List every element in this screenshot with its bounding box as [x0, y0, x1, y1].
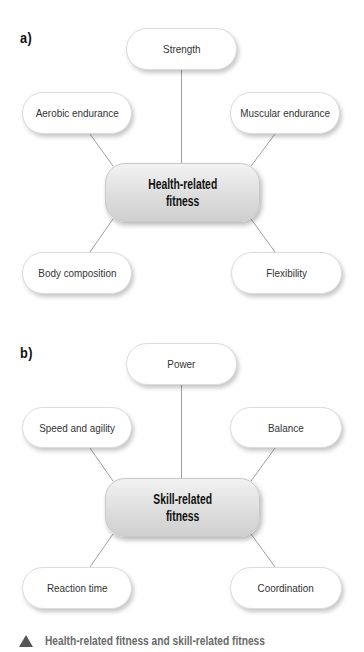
- node-label: Coordination: [258, 582, 314, 594]
- center-label-line2: fitness: [166, 508, 199, 525]
- node-body-composition: Body composition: [22, 252, 132, 294]
- node-label: Aerobic endurance: [35, 107, 118, 119]
- connector-balance: [251, 448, 275, 481]
- node-muscular-endurance: Muscular endurance: [230, 92, 340, 134]
- figure-caption: Health-related fitness and skill-related…: [19, 634, 304, 648]
- center-node-skill-related-fitness: Skill-related fitness: [105, 478, 260, 537]
- node-aerobic-endurance: Aerobic endurance: [22, 92, 132, 134]
- node-label: Speed and agility: [39, 422, 115, 434]
- center-node-health-related-fitness: Health-related fitness: [105, 163, 260, 222]
- node-power: Power: [126, 343, 237, 385]
- panel-label-b: b): [20, 344, 33, 361]
- caption-text: Health-related fitness and skill-related…: [45, 634, 265, 648]
- node-coordination: Coordination: [230, 567, 342, 609]
- node-label: Muscular endurance: [240, 107, 330, 119]
- connector-muscular: [251, 134, 275, 166]
- connector-reaction: [90, 534, 113, 567]
- node-speed-and-agility: Speed and agility: [22, 407, 132, 448]
- panel-label-a: a): [20, 29, 32, 46]
- connector-speed: [90, 448, 113, 481]
- node-label: Balance: [268, 422, 304, 434]
- triangle-icon: [19, 635, 33, 647]
- center-label-line1: Skill-related: [153, 491, 212, 508]
- node-strength: Strength: [126, 28, 237, 70]
- node-label: Body composition: [38, 267, 116, 279]
- node-label: Strength: [163, 43, 200, 55]
- connector-aerobic: [90, 134, 113, 166]
- center-label-line1: Health-related: [148, 176, 217, 193]
- connector-body-composition: [90, 219, 113, 252]
- node-reaction-time: Reaction time: [22, 567, 132, 609]
- node-label: Reaction time: [47, 582, 107, 594]
- connector-coordination: [251, 534, 275, 567]
- center-label-line2: fitness: [166, 193, 199, 210]
- node-balance: Balance: [230, 407, 342, 448]
- node-label: Flexibility: [266, 267, 307, 279]
- node-flexibility: Flexibility: [231, 252, 342, 294]
- node-label: Power: [167, 358, 195, 370]
- connector-flexibility: [251, 219, 275, 252]
